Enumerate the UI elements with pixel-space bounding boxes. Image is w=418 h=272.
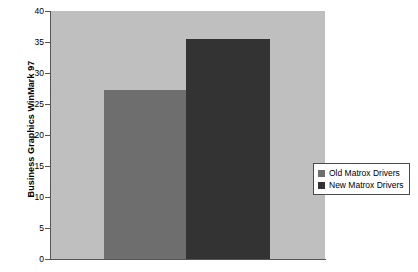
- legend-swatch-icon: [318, 182, 325, 189]
- legend-label: Old Matrox Drivers: [329, 169, 400, 178]
- chart-legend: Old Matrox DriversNew Matrox Drivers: [313, 163, 410, 195]
- y-axis-tick-label: 10: [22, 193, 44, 202]
- y-axis-tick-label: 0: [22, 255, 44, 264]
- y-axis-tick-label: 15: [22, 162, 44, 171]
- y-axis-tick-label: 30: [22, 69, 44, 78]
- plot-area: [51, 11, 325, 259]
- x-axis-line: [50, 259, 326, 260]
- bar-chart: Business Graphics WinMark 97 05101520253…: [0, 0, 418, 272]
- y-axis-tick-label: 20: [22, 131, 44, 140]
- bar-old-matrox-drivers: [104, 90, 186, 259]
- y-axis-tick-label: 40: [22, 7, 44, 16]
- legend-label: New Matrox Drivers: [329, 181, 404, 190]
- legend-swatch-icon: [318, 170, 325, 177]
- y-axis-tick-labels: 0510152025303540: [18, 0, 44, 272]
- legend-item[interactable]: New Matrox Drivers: [318, 179, 404, 191]
- y-axis-tick-label: 5: [22, 224, 44, 233]
- y-axis-tick-label: 25: [22, 100, 44, 109]
- bar-new-matrox-drivers: [186, 39, 270, 259]
- y-axis-tick-label: 35: [22, 38, 44, 47]
- legend-item[interactable]: Old Matrox Drivers: [318, 167, 404, 179]
